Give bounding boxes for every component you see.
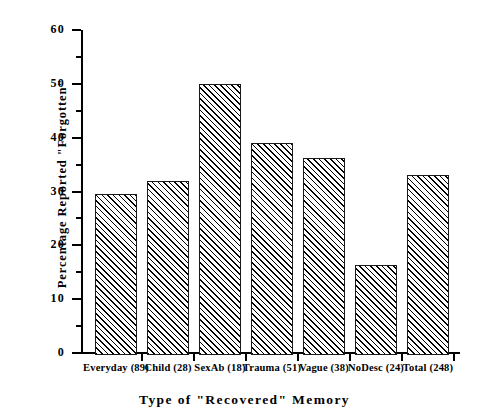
y-axis-tick-minor [76,217,81,219]
x-axis-tick [349,354,351,361]
x-axis-tick-label: Total (248) [378,362,478,375]
y-axis-tick-minor [76,110,81,112]
y-axis-tick-label: 30 [5,185,65,197]
bar [355,265,397,355]
plot-area: 0102030405060 [81,30,460,353]
y-axis-tick-minor [76,56,81,58]
bar [303,158,345,355]
y-axis-tick-label: 60 [5,23,65,35]
bar [199,84,241,355]
bar [251,143,293,355]
bar [147,181,189,355]
y-axis-tick-major [72,298,81,300]
x-axis-tick [453,354,455,361]
y-axis-spine [81,30,83,354]
y-axis-tick-major [72,29,81,31]
bar [407,175,449,355]
y-axis-tick-label: 10 [5,292,65,304]
y-axis-tick-label: 40 [5,131,65,143]
y-axis-tick-major [72,191,81,193]
bar [95,194,137,355]
y-axis-tick-label: 20 [5,238,65,250]
x-axis-tick-labels: Everyday (89)Child (28)SexAb (18)Trauma … [60,362,480,378]
y-axis-tick-minor [76,325,81,327]
x-axis-tick [401,354,403,361]
x-axis-tick [245,354,247,361]
x-axis-title: Type of "Recovered" Memory [0,392,489,408]
y-axis-tick-minor [76,271,81,273]
y-axis-tick-major [72,83,81,85]
x-axis-tick [141,354,143,361]
x-axis-tick [297,354,299,361]
x-axis-tick [193,354,195,361]
y-axis-tick-major [72,352,81,354]
y-axis-tick-major [72,137,81,139]
y-axis-tick-minor [76,164,81,166]
y-axis-tick-label: 0 [5,346,65,358]
y-axis-tick-major [72,244,81,246]
y-axis-tick-label: 50 [5,77,65,89]
bar-chart-figure: Percentage Reported "Forgotten" 01020304… [0,0,489,414]
